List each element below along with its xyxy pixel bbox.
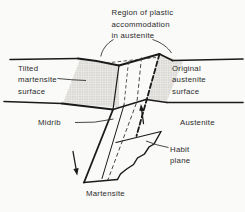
original-label-line3: surface [172, 87, 199, 96]
leader-region-right [153, 40, 172, 54]
midrib-dashed-upper-trace [124, 62, 129, 106]
lower-surface-line-left [4, 102, 62, 104]
plate-ledge-line [116, 132, 161, 143]
upper-surface-line-left [10, 59, 78, 60]
tilted-label-line2: martensite [18, 75, 57, 84]
habit-label-line1: Habit [170, 145, 190, 154]
label-region-of-plastic-accommodation: Region of plastic accommodation in auste… [112, 8, 174, 40]
label-original-austenite-surface: Original austenite surface [172, 64, 206, 96]
tilted-label-line3: surface [18, 87, 45, 96]
leader-region-left [101, 40, 114, 57]
label-martensite: Martensite [86, 189, 125, 198]
original-label-line2: austenite [172, 75, 206, 84]
label-tilted-martensite-surface: Tilted martensite surface [18, 64, 57, 96]
region-label-line1: Region of plastic [112, 8, 174, 17]
plate-bottom-edge [84, 180, 118, 183]
original-label-line1: Original [172, 64, 201, 73]
label-habit-plane: Habit plane [170, 145, 190, 165]
tilted-surface-stipple-left [63, 60, 119, 108]
shear-direction-down-arrow [73, 152, 79, 176]
diagram-canvas: Region of plastic accommodation in auste… [0, 0, 245, 212]
label-midrib: Midrib [38, 118, 61, 127]
upper-surface-line-right [173, 59, 244, 61]
label-austenite: Austenite [180, 118, 215, 127]
habit-label-line2: plane [170, 156, 190, 165]
tilted-label-line1: Tilted [18, 64, 38, 73]
martensite-surface-relief-diagram: Region of plastic accommodation in auste… [0, 0, 245, 212]
plate-right-jagged-edge [118, 132, 162, 180]
region-label-line3: in austenite [112, 31, 155, 40]
plate-ridge-line [119, 54, 160, 66]
region-label-line2: accommodation [112, 20, 170, 29]
